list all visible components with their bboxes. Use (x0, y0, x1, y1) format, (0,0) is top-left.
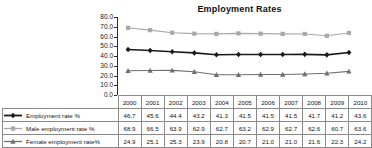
data-point-marker (126, 26, 130, 30)
y-axis-tick-label: 70.0 (100, 24, 113, 31)
data-point-marker (346, 50, 351, 56)
y-axis-tick-label: 40.0 (100, 53, 113, 60)
legend-marker-square-icon (3, 124, 23, 133)
table-cell-value: 60.7 (326, 122, 349, 135)
data-point-marker (148, 48, 153, 54)
data-point-marker (280, 52, 285, 58)
table-cell-value: 46.7 (118, 109, 141, 122)
y-axis-tick-label: 30.0 (100, 63, 113, 70)
table-cell-value: 25.3 (164, 135, 187, 148)
data-table: 2000200120022003200420052006200720082009… (2, 95, 372, 148)
y-axis-tick-label: 10.0 (100, 82, 113, 89)
data-point-marker (281, 32, 285, 36)
table-cell-value: 41.3 (210, 109, 233, 122)
legend-cell: Female employment rate% (3, 135, 119, 148)
table-cell-value: 20.8 (210, 135, 233, 148)
data-point-marker (11, 112, 16, 118)
data-point-marker (325, 34, 329, 38)
table-corner-cell (3, 96, 119, 109)
chart-title: Employment Rates (117, 4, 362, 14)
data-point-marker (347, 31, 351, 35)
table-cell-value: 63.6 (349, 122, 372, 135)
legend-label: Female employment rate% (26, 138, 100, 145)
table-cell-value: 68.9 (118, 122, 141, 135)
table-cell-value: 41.7 (303, 109, 326, 122)
table-header-year: 2002 (164, 96, 187, 109)
table-cell-value: 24.2 (349, 135, 372, 148)
y-axis-tick-label: 60.0 (100, 34, 113, 41)
data-point-marker (258, 52, 263, 58)
table-cell-value: 62.9 (256, 122, 279, 135)
data-point-marker (170, 31, 174, 35)
data-point-marker (236, 52, 241, 58)
plot-area: 80.070.060.050.040.030.020.010.00.0 (117, 17, 362, 95)
table-header-row: 2000200120022003200420052006200720082009… (3, 96, 372, 109)
table-header-year: 2004 (210, 96, 233, 109)
data-point-marker (302, 52, 307, 58)
table-cell-value: 25.1 (141, 135, 164, 148)
table-header-year: 2010 (349, 96, 372, 109)
table-cell-value: 23.9 (187, 135, 210, 148)
data-point-marker (192, 50, 197, 56)
table-cell-value: 43.6 (349, 109, 372, 122)
data-point-marker (258, 32, 262, 36)
table-cell-value: 21.0 (256, 135, 279, 148)
table-cell-value: 22.3 (326, 135, 349, 148)
table-header-year: 2009 (326, 96, 349, 109)
table-cell-value: 21.6 (303, 135, 326, 148)
data-point-marker (11, 126, 15, 130)
table-cell-value: 45.6 (141, 109, 164, 122)
table-cell-value: 62.7 (280, 122, 303, 135)
legend-marker-triangle-icon (3, 137, 23, 146)
table-cell-value: 24.9 (118, 135, 141, 148)
table-cell-value: 41.5 (233, 109, 256, 122)
y-axis-tick-label: 80.0 (100, 14, 113, 21)
table-row: Female employment rate%24.925.125.323.92… (3, 135, 372, 148)
data-point-marker (324, 52, 329, 58)
table-cell-value: 21.0 (280, 135, 303, 148)
data-point-marker (214, 32, 218, 36)
data-point-marker (126, 47, 131, 53)
data-point-marker (192, 32, 196, 36)
legend-cell: Employment rate % (3, 109, 119, 122)
table-cell-value: 66.5 (141, 122, 164, 135)
data-point-marker (170, 49, 175, 55)
table-body: Employment rate %46.745.644.443.241.341.… (3, 109, 372, 148)
table-cell-value: 41.5 (256, 109, 279, 122)
y-axis-tick-label: 20.0 (100, 73, 113, 80)
table-cell-value: 41.2 (326, 109, 349, 122)
table-header-year: 2005 (233, 96, 256, 109)
series-plot (117, 17, 362, 95)
data-point-marker (214, 52, 219, 58)
table-cell-value: 62.9 (187, 122, 210, 135)
table-cell-value: 62.6 (303, 122, 326, 135)
table-cell-value: 63.9 (164, 122, 187, 135)
data-point-marker (148, 28, 152, 32)
table-cell-value: 20.7 (233, 135, 256, 148)
data-point-marker (236, 31, 240, 35)
table-cell-value: 44.4 (164, 109, 187, 122)
data-point-marker (303, 32, 307, 36)
table-header-year: 2008 (303, 96, 326, 109)
y-axis-tick-label: 50.0 (100, 43, 113, 50)
table-row: Male employment rate %68.966.563.962.962… (3, 122, 372, 135)
legend-cell: Male employment rate % (3, 122, 119, 135)
table-cell-value: 62.7 (210, 122, 233, 135)
legend-label: Employment rate % (26, 112, 80, 119)
legend-label: Male employment rate % (26, 125, 94, 132)
table-header-year: 2007 (280, 96, 303, 109)
table-row: Employment rate %46.745.644.443.241.341.… (3, 109, 372, 122)
table-cell-value: 63.2 (233, 122, 256, 135)
legend-marker-diamond-icon (3, 111, 23, 120)
table-header-year: 2000 (118, 96, 141, 109)
table-header-year: 2006 (256, 96, 279, 109)
table-header-year: 2003 (187, 96, 210, 109)
table-header-year: 2001 (141, 96, 164, 109)
table-cell-value: 41.5 (280, 109, 303, 122)
table-cell-value: 43.2 (187, 109, 210, 122)
